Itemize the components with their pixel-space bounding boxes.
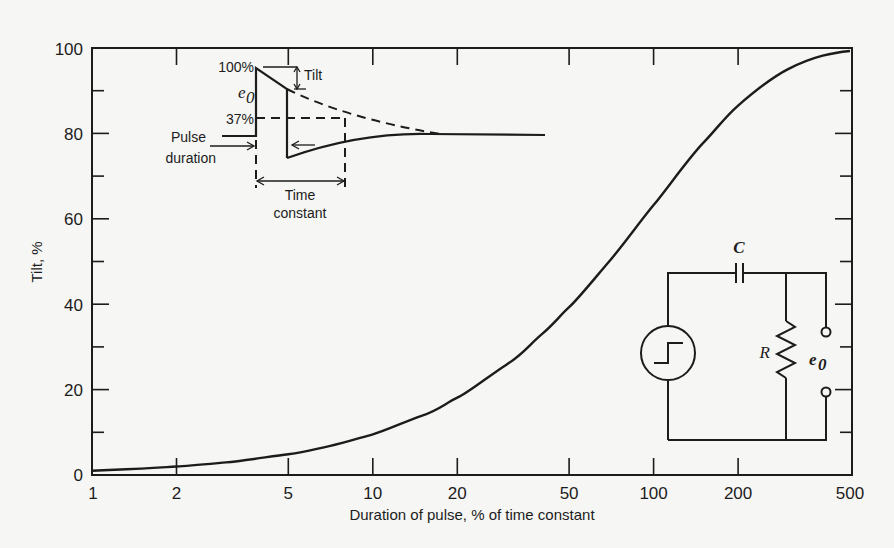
- svg-text:R: R: [759, 343, 771, 362]
- svg-text:37%: 37%: [226, 111, 254, 127]
- svg-text:200: 200: [724, 484, 752, 503]
- svg-text:Pulse: Pulse: [171, 129, 206, 145]
- svg-text:Time: Time: [285, 187, 316, 203]
- x-ticks: [177, 48, 739, 475]
- svg-text:duration: duration: [165, 150, 216, 166]
- x-tick-labels: 1 2 5 10 20 50 100 200 500: [88, 484, 864, 503]
- svg-text:0: 0: [818, 355, 827, 374]
- svg-text:500: 500: [836, 484, 864, 503]
- svg-text:0: 0: [74, 466, 83, 485]
- tilt-curve: [92, 51, 850, 471]
- svg-text:5: 5: [284, 484, 293, 503]
- svg-text:1: 1: [88, 484, 97, 503]
- svg-text:0: 0: [246, 88, 255, 107]
- svg-text:20: 20: [448, 484, 467, 503]
- svg-text:2: 2: [172, 484, 181, 503]
- plot-frame: [92, 48, 852, 475]
- y-axis-title: Tilt, %: [28, 241, 45, 282]
- svg-text:100: 100: [639, 484, 667, 503]
- y-tick-labels: 0 20 40 60 80 100: [55, 40, 83, 485]
- svg-text:Tilt: Tilt: [304, 67, 322, 83]
- tilt-chart: 0 20 40 60 80 100 1 2 5 10 20 50 100 200…: [0, 0, 894, 548]
- svg-text:100%: 100%: [218, 59, 254, 75]
- svg-text:constant: constant: [274, 205, 327, 221]
- svg-text:e: e: [238, 83, 246, 102]
- svg-text:40: 40: [64, 296, 83, 315]
- svg-text:C: C: [733, 238, 745, 257]
- svg-text:50: 50: [560, 484, 579, 503]
- svg-text:e: e: [809, 350, 817, 369]
- y-ticks: [92, 91, 852, 433]
- rc-circuit-inset: C R e 0: [641, 238, 831, 440]
- svg-text:20: 20: [64, 381, 83, 400]
- svg-text:80: 80: [64, 125, 83, 144]
- svg-text:60: 60: [64, 210, 83, 229]
- x-axis-title: Duration of pulse, % of time constant: [349, 506, 595, 523]
- svg-text:10: 10: [363, 484, 382, 503]
- svg-text:100: 100: [55, 40, 83, 59]
- pulse-waveform-inset: 100% e 0 37% Tilt Pulse duration Time co…: [165, 59, 545, 221]
